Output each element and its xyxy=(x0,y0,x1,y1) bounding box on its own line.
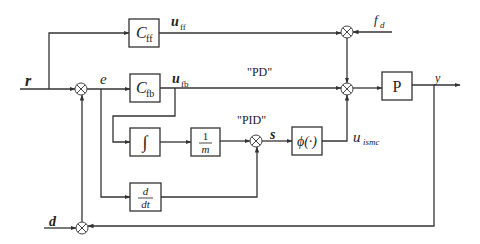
block-plant: P xyxy=(382,72,412,100)
inv-m-numerator: 1 xyxy=(203,130,209,142)
signal-y: y xyxy=(434,71,441,85)
svg-text:ismc: ismc xyxy=(363,137,380,147)
block-cfb: C fb xyxy=(130,74,160,102)
sum-junction-sliding-surface xyxy=(250,135,262,147)
cfb-sub: fb xyxy=(146,88,154,99)
wires xyxy=(20,32,460,228)
svg-text:fb: fb xyxy=(181,79,189,89)
block-phi: ϕ(·) xyxy=(292,127,322,155)
signal-f-d: f d xyxy=(374,12,385,30)
sum-junction-control xyxy=(341,83,353,95)
svg-text:u: u xyxy=(172,71,180,86)
signal-e: e xyxy=(100,71,107,87)
svg-text:u: u xyxy=(171,14,179,29)
sum-junction-disturbance-force xyxy=(341,26,353,38)
signal-u-ff: u ff xyxy=(171,14,186,32)
cff-sub: ff xyxy=(146,33,153,44)
signal-u-fb: u fb xyxy=(172,71,189,89)
signal-r: r xyxy=(25,72,32,89)
sum-junction-measurement-noise xyxy=(76,222,88,234)
signal-u-ismc: u ismc xyxy=(353,129,380,147)
signal-d: d xyxy=(49,214,57,229)
plant-label: P xyxy=(393,78,402,95)
svg-text:u: u xyxy=(353,129,361,145)
phi-label: ϕ(·) xyxy=(297,134,317,150)
svg-text:ff: ff xyxy=(180,22,186,32)
block-cff: C ff xyxy=(129,19,159,47)
sum-junction-error xyxy=(75,83,87,95)
deriv-numerator: d xyxy=(143,185,149,197)
annotation-pid: "PID" xyxy=(237,113,266,127)
signal-s: s xyxy=(269,127,276,142)
svg-text:d: d xyxy=(380,20,385,30)
inv-m-denominator: m xyxy=(202,143,210,155)
block-integral: ∫ xyxy=(130,128,160,156)
block-inverse-mass: 1 m xyxy=(191,128,220,156)
deriv-denominator: dt xyxy=(141,198,151,210)
annotation-pd: "PD" xyxy=(247,65,272,79)
block-derivative: d dt xyxy=(130,183,161,211)
block-diagram: C ff C fb ∫ 1 m d dt ϕ(·) P r e u ff u f xyxy=(0,0,480,244)
